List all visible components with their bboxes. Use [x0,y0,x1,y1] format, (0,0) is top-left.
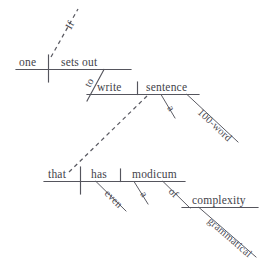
diagram-svg: one sets out If to write sentence a 100-… [0,0,270,269]
word-modicum: modicum [132,168,177,180]
word-one: one [19,56,36,68]
sentence-diagram: one sets out If to write sentence a 100-… [0,0,270,269]
word-to: to [82,76,96,89]
word-sentence: sentence [146,81,187,93]
relative-clause-dashed-connector [69,96,147,172]
word-write: write [97,81,122,93]
word-sets-out: sets out [61,56,98,68]
word-that: that [48,168,67,180]
word-hundred-word: 100-word [196,106,235,143]
word-if: If [63,19,76,31]
word-complexity: complexity [192,194,246,207]
word-grammatical: grammatical [206,215,254,259]
subordinator-dashed-connector [51,9,78,57]
word-has: has [91,168,107,180]
